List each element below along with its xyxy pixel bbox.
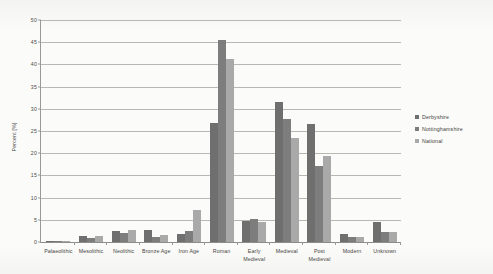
legend-item: Derbyshire: [415, 114, 463, 120]
legend-swatch-icon: [415, 139, 419, 143]
legend-swatch-icon: [415, 127, 419, 131]
y-tick-mark: [38, 20, 41, 21]
bar: [95, 236, 103, 242]
y-tick-label: 30: [31, 106, 37, 112]
bar: [218, 40, 226, 242]
chart-page: Percent [%] 05101520253035404550 Palaeol…: [0, 0, 493, 274]
y-tick-label: 35: [31, 84, 37, 90]
bar: [258, 222, 266, 242]
bar-chart: Percent [%] 05101520253035404550 Palaeol…: [0, 0, 493, 274]
bar: [275, 102, 283, 242]
x-tick-label: PostMedieval: [308, 247, 330, 263]
bar: [242, 221, 250, 242]
bar: [340, 234, 348, 242]
y-tick-label: 0: [34, 239, 37, 245]
bar: [291, 138, 299, 242]
x-tick-label: Iron Age: [179, 247, 200, 255]
bar: [185, 231, 193, 242]
bar-groups: PalaeolithicMesolithicNeolithicBronze Ag…: [42, 20, 401, 242]
x-tick-label: Mesolithic: [79, 247, 104, 255]
y-tick-mark: [38, 86, 41, 87]
gridline: [41, 242, 401, 243]
y-tick-mark: [38, 131, 41, 132]
bar-group: Bronze Age: [140, 20, 173, 242]
y-tick-mark: [38, 242, 41, 243]
bar: [307, 124, 315, 242]
y-tick-label: 50: [31, 17, 37, 23]
bar: [112, 231, 120, 242]
legend-item: National: [415, 138, 463, 144]
bar: [128, 230, 136, 242]
bar-group: Modern: [336, 20, 369, 242]
bar: [144, 230, 152, 242]
y-tick-mark: [38, 153, 41, 154]
legend-swatch-icon: [415, 115, 419, 119]
y-tick-label: 40: [31, 61, 37, 67]
x-tick-label: Roman: [213, 247, 231, 255]
bar: [120, 233, 128, 242]
bar: [389, 232, 397, 242]
bar: [160, 235, 168, 242]
y-tick-mark: [38, 175, 41, 176]
bar: [54, 241, 62, 242]
bar-group: PostMedieval: [303, 20, 336, 242]
bar-group: EarlyMedieval: [238, 20, 271, 242]
bar-group: Neolithic: [107, 20, 140, 242]
y-tick-mark: [38, 64, 41, 65]
y-tick-label: 5: [34, 217, 37, 223]
bar: [152, 237, 160, 242]
bar: [250, 219, 258, 242]
bar: [373, 222, 381, 242]
bar: [193, 210, 201, 242]
bar: [356, 237, 364, 242]
legend-label: National: [422, 138, 443, 144]
y-tick-label: 15: [31, 172, 37, 178]
y-tick-label: 20: [31, 150, 37, 156]
bar: [381, 232, 389, 242]
bar: [79, 236, 87, 242]
bar: [62, 241, 70, 242]
y-tick-label: 45: [31, 39, 37, 45]
x-tick-label: Bronze Age: [142, 247, 170, 255]
bar: [87, 238, 95, 242]
y-tick-mark: [38, 108, 41, 109]
bar: [283, 119, 291, 242]
x-tick-label: EarlyMedieval: [243, 247, 265, 263]
x-tick-label: Modern: [343, 247, 362, 255]
y-tick-mark: [38, 219, 41, 220]
bar-group: Roman: [205, 20, 238, 242]
bar: [348, 237, 356, 242]
y-tick-label: 10: [31, 195, 37, 201]
y-tick-label: 25: [31, 128, 37, 134]
y-tick-mark: [38, 42, 41, 43]
bar-group: Medieval: [270, 20, 303, 242]
legend-label: Nottinghamshire: [422, 126, 463, 132]
legend-label: Derbyshire: [422, 114, 449, 120]
legend-item: Nottinghamshire: [415, 126, 463, 132]
x-tick-label: Palaeolithic: [44, 247, 72, 255]
bar: [226, 59, 234, 242]
x-tick-label: Neolithic: [113, 247, 134, 255]
bar-group: Mesolithic: [75, 20, 108, 242]
bar: [46, 241, 54, 242]
legend: DerbyshireNottinghamshireNational: [415, 114, 463, 144]
y-axis-label: Percent [%]: [11, 122, 17, 151]
bar-group: Unknown: [368, 20, 401, 242]
bar: [210, 123, 218, 242]
bar: [315, 166, 323, 242]
bar: [177, 234, 185, 242]
y-tick-mark: [38, 197, 41, 198]
bar-group: Iron Age: [173, 20, 206, 242]
x-tick-label: Medieval: [276, 247, 298, 255]
bar: [323, 156, 331, 242]
bar-group: Palaeolithic: [42, 20, 75, 242]
x-tick-label: Unknown: [373, 247, 396, 255]
plot-area: 05101520253035404550 PalaeolithicMesolit…: [40, 20, 401, 243]
